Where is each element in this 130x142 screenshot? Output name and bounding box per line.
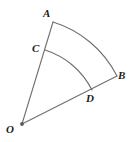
geometry-figure: A B C D O xyxy=(0,0,130,142)
segment-OB xyxy=(22,76,117,124)
point-label-d: D xyxy=(86,93,94,104)
outer-arc-AB xyxy=(53,22,117,76)
point-label-o: O xyxy=(6,124,14,135)
point-label-b: B xyxy=(118,70,125,81)
vertex-dot-o xyxy=(20,122,24,126)
geometry-canvas xyxy=(0,0,130,142)
point-label-a: A xyxy=(43,8,50,19)
segment-OA xyxy=(22,22,53,124)
inner-arc-CD xyxy=(45,50,92,90)
point-label-c: C xyxy=(32,43,39,54)
